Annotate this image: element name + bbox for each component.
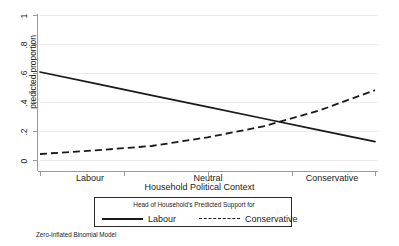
legend-key-solid-line-icon [102,214,143,224]
y-axis [33,14,38,171]
gridlines [40,16,378,161]
legend-key-dashed-line-icon [199,214,240,224]
legend-entry-conservative[interactable]: Conservative [199,212,298,226]
series-line-conservative [40,90,375,154]
legend-entry-labour[interactable]: Labour [102,212,176,226]
legend-label-labour: Labour [148,214,176,224]
legend: Head of Household's Predicted Support fo… [94,197,292,227]
x-axis-title: Household Political Context [0,182,399,192]
chart-figure: predicted proportion 1 .8 .6 .4 .2 0 [0,0,399,246]
legend-label-conservative: Conservative [245,214,298,224]
legend-title: Head of Household's Predicted Support fo… [95,201,293,208]
figure-note: Zero-Inflated Binomial Model [36,231,117,238]
legend-entries: Labour Conservative [95,212,293,226]
